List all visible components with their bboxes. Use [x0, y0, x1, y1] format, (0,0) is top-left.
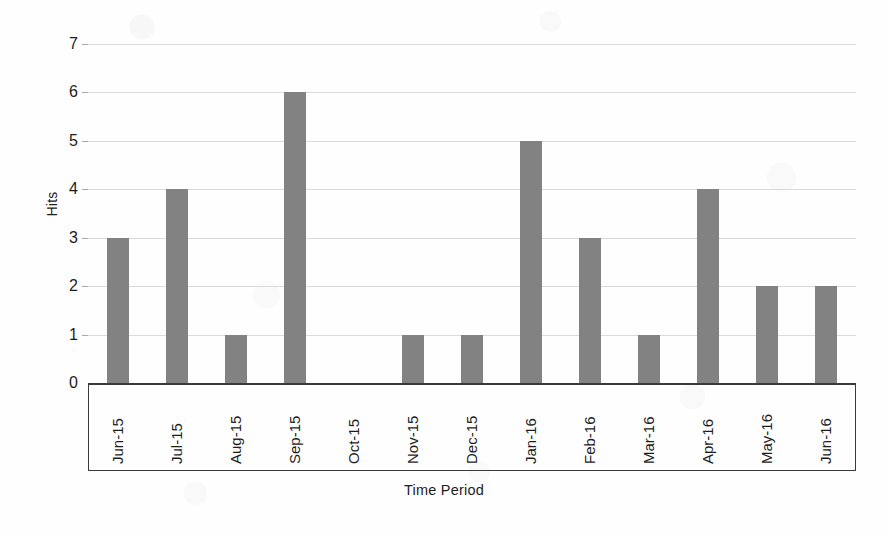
y-axis-tick-label: 6	[52, 83, 78, 101]
bar	[225, 335, 247, 383]
bar	[402, 335, 424, 383]
x-axis-tick-label: Dec-15	[463, 380, 480, 464]
x-axis-tick-label: Jun-15	[109, 380, 126, 464]
bar	[107, 238, 129, 383]
x-axis-tick-label: May-16	[758, 380, 775, 464]
bar	[520, 141, 542, 383]
bar	[697, 189, 719, 383]
bar	[815, 286, 837, 383]
bar-chart: Hits 01234567 Jun-15Jul-15Aug-15Sep-15Oc…	[0, 0, 888, 536]
x-axis-title: Time Period	[0, 482, 888, 498]
bar	[284, 92, 306, 383]
gridline	[88, 238, 856, 239]
x-axis-tick-label: Oct-15	[345, 380, 362, 464]
bar	[579, 238, 601, 383]
gridline	[88, 92, 856, 93]
bar	[638, 335, 660, 383]
x-axis-tick-label: Nov-15	[404, 380, 421, 464]
x-axis-tick-label: Jun-16	[817, 380, 834, 464]
y-axis-tick-label: 2	[52, 277, 78, 295]
gridline	[88, 286, 856, 287]
bar	[756, 286, 778, 383]
y-axis-tick-label: 0	[52, 374, 78, 392]
y-axis-tick-label: 7	[52, 35, 78, 53]
x-axis-label-box: Jun-15Jul-15Aug-15Sep-15Oct-15Nov-15Dec-…	[88, 385, 856, 471]
x-axis-tick-label: Apr-16	[699, 380, 716, 464]
x-axis-tick-label: Mar-16	[640, 380, 657, 464]
x-axis-tick-label: Aug-15	[227, 380, 244, 464]
x-axis-tick-label: Jul-15	[168, 380, 185, 464]
x-axis-tick-label: Feb-16	[581, 380, 598, 464]
x-axis-tick-label: Sep-15	[286, 380, 303, 464]
y-axis-tick-label: 3	[52, 229, 78, 247]
gridline	[88, 189, 856, 190]
gridline	[88, 141, 856, 142]
x-axis-tick-label: Jan-16	[522, 380, 539, 464]
y-axis-tick-label: 5	[52, 132, 78, 150]
y-axis-tick-label: 1	[52, 326, 78, 344]
gridline	[88, 44, 856, 45]
plot-area	[88, 44, 856, 383]
bar	[166, 189, 188, 383]
y-axis-tick-label: 4	[52, 180, 78, 198]
bar	[461, 335, 483, 383]
